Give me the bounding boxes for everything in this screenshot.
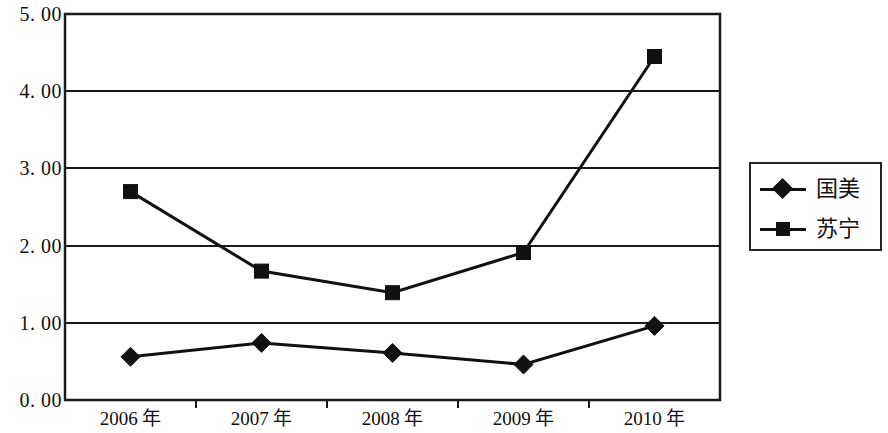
x-axis-tick-labels: 2006 年 2007 年 2008 年 2009 年 2010 年 (65, 406, 720, 433)
square-marker-icon (760, 218, 806, 240)
series-suning (124, 50, 662, 300)
legend-item-guomei: 国美 (751, 169, 884, 209)
data-point (648, 50, 662, 64)
data-point (255, 264, 269, 278)
data-point (121, 347, 140, 366)
plot-frame (65, 14, 720, 400)
data-point (124, 185, 138, 199)
legend-label-suning: 苏宁 (816, 217, 860, 241)
x-axis-tick-label-2007: 2007 年 (196, 406, 327, 433)
x-axis-tick-label-2006: 2006 年 (65, 406, 196, 433)
data-point (383, 343, 402, 362)
diamond-marker-icon (760, 178, 806, 200)
x-axis-tick-label-2009: 2009 年 (458, 406, 589, 433)
x-axis-tick-label-2008: 2008 年 (327, 406, 458, 433)
series-guomei (121, 316, 664, 374)
data-point (645, 316, 664, 335)
line-chart: 5. 00 4. 00 3. 00 2. 00 1. 00 0. 00 2006… (0, 0, 888, 433)
legend: 国美 苏宁 (749, 162, 882, 251)
data-series-layer (121, 50, 664, 375)
data-point (252, 333, 271, 352)
legend-label-guomei: 国美 (816, 177, 860, 201)
legend-item-suning: 苏宁 (751, 209, 884, 249)
x-axis-tick-label-2010: 2010 年 (589, 406, 720, 433)
data-point (386, 286, 400, 300)
data-point (514, 355, 533, 374)
data-point (517, 246, 531, 260)
